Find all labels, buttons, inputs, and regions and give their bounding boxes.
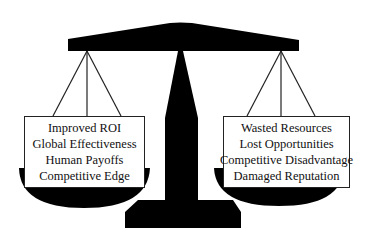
cost-item: Lost Opportunities bbox=[239, 136, 333, 152]
cost-item: Wasted Resources bbox=[241, 120, 332, 136]
scale-beam bbox=[68, 23, 299, 52]
cost-item: Competitive Disadvantage bbox=[220, 152, 353, 168]
benefit-item: Improved ROI bbox=[48, 120, 121, 136]
costs-box: Wasted Resources Lost Opportunities Comp… bbox=[223, 116, 350, 188]
benefit-item: Human Payoffs bbox=[46, 152, 124, 168]
benefits-box: Improved ROI Global Effectiveness Human … bbox=[24, 116, 145, 188]
benefit-item: Competitive Edge bbox=[39, 168, 130, 184]
cost-item: Damaged Reputation bbox=[234, 168, 340, 184]
left-hanger bbox=[53, 51, 121, 116]
balance-scale-diagram: Improved ROI Global Effectiveness Human … bbox=[0, 0, 368, 235]
right-hanger bbox=[247, 51, 315, 116]
scale-post bbox=[165, 51, 198, 192]
benefit-item: Global Effectiveness bbox=[32, 136, 136, 152]
scale-base bbox=[125, 188, 241, 228]
